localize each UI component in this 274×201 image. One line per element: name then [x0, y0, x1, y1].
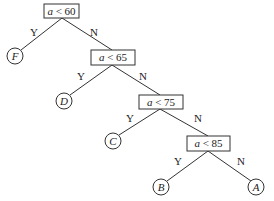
edge-n1-F	[21, 18, 62, 50]
edge-label-n4-A: N	[237, 155, 245, 167]
decision-node-a-lt-75: a < 75	[139, 95, 183, 109]
edge-label-n2-n3: N	[139, 70, 147, 82]
decision-node-a-lt-85: a < 85	[187, 136, 230, 151]
leaf-node-C: C	[105, 133, 121, 149]
svg-text:a < 85: a < 85	[194, 137, 223, 149]
edge-label-n3-C: Y	[126, 112, 134, 124]
svg-text:F: F	[11, 50, 19, 62]
edge-n1-n2	[62, 18, 112, 50]
edge-n2-n3	[112, 65, 160, 95]
svg-text:D: D	[59, 95, 68, 107]
leaf-node-D: D	[56, 93, 72, 109]
decision-tree-diagram: Y N Y N Y N Y N a < 60 a < 65 a < 75 a <…	[0, 0, 274, 201]
leaf-node-F: F	[7, 48, 23, 64]
svg-text:a < 65: a < 65	[99, 51, 128, 63]
leaf-node-A: A	[248, 179, 264, 195]
edge-label-n4-B: Y	[174, 155, 182, 167]
svg-text:C: C	[109, 135, 117, 147]
svg-text:a < 75: a < 75	[147, 96, 176, 108]
edge-label-n3-n4: N	[194, 112, 202, 124]
edge-label-n1-F: Y	[30, 26, 38, 38]
leaf-node-B: B	[153, 179, 169, 195]
edge-label-n2-D: Y	[77, 70, 85, 82]
svg-text:A: A	[252, 181, 260, 193]
decision-node-a-lt-60: a < 60	[44, 4, 79, 18]
edge-label-n1-n2: N	[90, 26, 98, 38]
decision-node-a-lt-65: a < 65	[91, 50, 135, 65]
svg-text:a < 60: a < 60	[47, 5, 76, 17]
svg-text:B: B	[158, 181, 165, 193]
